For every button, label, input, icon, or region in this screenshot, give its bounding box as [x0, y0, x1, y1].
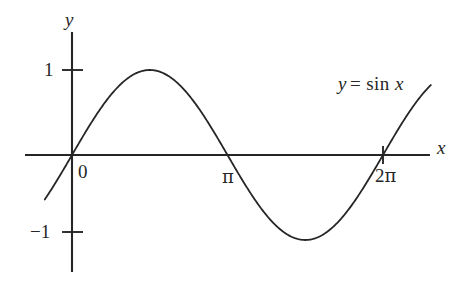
- x-tick-2pi-label: 2π: [375, 166, 396, 185]
- curve-equation-lhs: y: [338, 73, 347, 94]
- sine-graph-canvas: [0, 0, 469, 282]
- curve-equation-operator: =: [347, 73, 364, 94]
- x-axis-label: x: [437, 138, 445, 157]
- x-tick-2pi-number: 2: [375, 165, 385, 186]
- y-axis-label: y: [65, 10, 73, 29]
- y-tick-top-label: 1: [44, 60, 54, 79]
- x-tick-2pi-pi-glyph: π: [385, 165, 397, 186]
- x-tick-pi-label: π: [222, 168, 234, 186]
- origin-label: 0: [78, 162, 88, 181]
- curve-equation-label: y=sin x: [338, 74, 404, 93]
- curve-equation-function: sin: [364, 73, 390, 94]
- curve-equation-variable: x: [395, 73, 404, 94]
- y-tick-bottom-label: −1: [30, 222, 50, 241]
- sine-graph-figure: y x 0 1 −1 π 2π y=sin x: [0, 0, 469, 282]
